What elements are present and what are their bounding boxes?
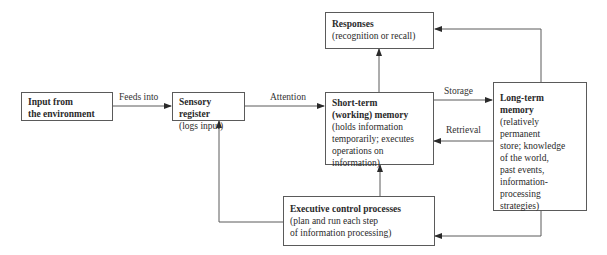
- node-sensory-desc: (logs input): [179, 120, 238, 132]
- node-exec-desc: (plan and run each step of information p…: [290, 215, 428, 239]
- label-feeds-into: Feeds into: [119, 92, 158, 102]
- node-ltm-title: Long-term memory: [500, 92, 580, 116]
- arrow-ltm-to-exec: [435, 210, 541, 236]
- node-executive-control: Executive control processes (plan and ru…: [283, 196, 435, 246]
- node-sensory-title: Sensory register: [179, 96, 238, 120]
- node-input-title: Input from the environment: [28, 96, 106, 120]
- node-responses: Responses (recognition or recall): [325, 12, 434, 49]
- node-ltm-desc: (relatively permanent store; knowledge o…: [500, 116, 580, 212]
- arrow-exec-to-sensory: [219, 121, 283, 222]
- node-stm-title: Short-term (working) memory: [332, 97, 427, 121]
- label-storage: Storage: [444, 86, 473, 96]
- node-input: Input from the environment: [21, 92, 113, 121]
- node-responses-desc: (recognition or recall): [332, 30, 427, 42]
- label-attention: Attention: [270, 92, 306, 102]
- arrow-ltm-to-responses: [435, 29, 541, 82]
- node-short-term-memory: Short-term (working) memory (holds infor…: [325, 92, 434, 165]
- node-responses-title: Responses: [332, 18, 427, 30]
- node-stm-desc: (holds information temporarily; executes…: [332, 121, 427, 169]
- node-long-term-memory: Long-term memory (relatively permanent s…: [493, 82, 587, 211]
- node-sensory-register: Sensory register (logs input): [172, 92, 245, 121]
- node-exec-title: Executive control processes: [290, 203, 428, 215]
- label-retrieval: Retrieval: [446, 125, 481, 135]
